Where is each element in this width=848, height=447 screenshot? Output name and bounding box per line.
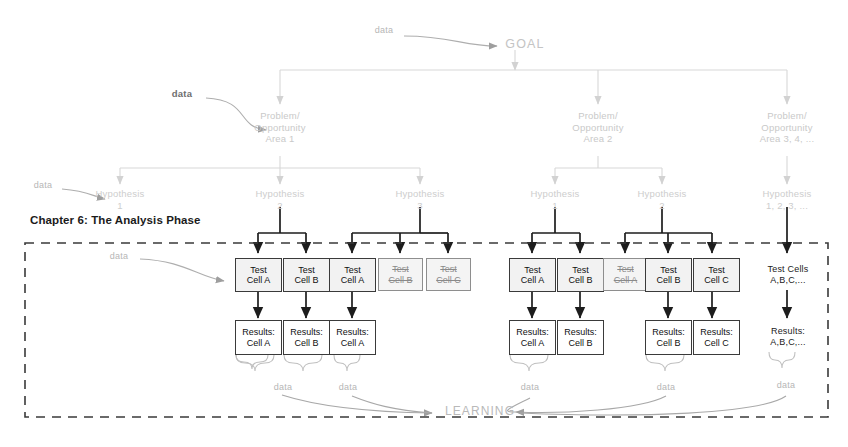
test-cell-g2-a[interactable]: Test Cell A xyxy=(329,258,376,292)
problem-area-3: Problem/ Opportunity Area 3, 4, ... xyxy=(740,110,834,145)
test-cell-label: Test Cell B xyxy=(656,265,680,286)
results-label: Results: Cell A xyxy=(336,327,369,348)
test-cell-label: Test Cell C xyxy=(704,265,729,286)
test-cell-label: Test Cell A xyxy=(521,265,545,286)
results-r2-a[interactable]: Results: Cell A xyxy=(329,320,376,355)
hypothesis-1-2: Hypothesis 2 xyxy=(240,188,320,211)
test-cell-label: Test Cell B xyxy=(388,264,412,285)
data-label-to-hypothesis1: data xyxy=(26,179,60,191)
test-cell-g1-b[interactable]: Test Cell B xyxy=(283,258,330,292)
test-cells-g5-all: Test Cells A,B,C,... xyxy=(752,264,824,286)
results-r1-a[interactable]: Results: Cell A xyxy=(235,320,282,355)
learning-node: LEARNING xyxy=(437,405,523,417)
hypothesis-2-2: Hypothesis 2 xyxy=(622,188,702,211)
hypothesis-1-1: Hypothesis 1 xyxy=(80,188,160,211)
results-label: Results: Cell C xyxy=(700,327,733,348)
test-cell-label: Test Cell A xyxy=(247,265,271,286)
problem-area-1: Problem/ Opportunity Area 1 xyxy=(235,110,325,145)
test-cell-g1-a[interactable]: Test Cell A xyxy=(235,258,282,292)
test-cell-g4-c[interactable]: Test Cell C xyxy=(693,258,740,292)
results-r4-b[interactable]: Results: Cell B xyxy=(645,320,692,355)
results-r1-b[interactable]: Results: Cell B xyxy=(283,320,330,355)
test-cell-g3-b[interactable]: Test Cell B xyxy=(557,258,604,292)
test-cell-label: Test Cell C xyxy=(436,264,461,285)
data-label-to-area1: data xyxy=(162,88,202,100)
hypothesis-1-3: Hypothesis 3 xyxy=(380,188,460,211)
test-cell-g2-c-cancelled[interactable]: Test Cell C xyxy=(426,258,471,291)
diagram-canvas: Chapter 6: The Analysis Phase GOAL data … xyxy=(0,0,848,447)
goal-node: GOAL xyxy=(495,38,555,50)
data-label-brace-g2: data xyxy=(330,381,366,393)
problem-area-2: Problem/ Opportunity Area 2 xyxy=(553,110,643,145)
test-cell-label: Test Cell B xyxy=(568,265,592,286)
results-label: Results: Cell A xyxy=(516,327,549,348)
data-label-brace-g5: data xyxy=(768,379,804,391)
test-cell-g4-b[interactable]: Test Cell B xyxy=(645,258,692,292)
data-label-brace-g3: data xyxy=(512,381,548,393)
hypothesis-2-1: Hypothesis 1 xyxy=(515,188,595,211)
results-label: Results: Cell B xyxy=(290,327,323,348)
data-label-to-goal: data xyxy=(366,24,402,36)
test-cell-label: Test Cell A xyxy=(614,264,638,285)
results-label: Results: Cell A xyxy=(242,327,275,348)
test-cell-label: Test Cell B xyxy=(294,265,318,286)
chapter-heading: Chapter 6: The Analysis Phase xyxy=(30,214,201,226)
test-cell-label: Test Cell A xyxy=(341,265,365,286)
data-label-to-testcell: data xyxy=(100,250,138,262)
test-cell-g4-a-cancelled[interactable]: Test Cell A xyxy=(603,258,648,291)
results-label: Results: Cell B xyxy=(564,327,597,348)
test-cell-g3-a[interactable]: Test Cell A xyxy=(509,258,556,292)
data-label-brace-g4: data xyxy=(648,381,684,393)
results-label: Results: Cell B xyxy=(652,327,685,348)
data-label-brace-g1: data xyxy=(265,381,301,393)
results-r5-all: Results: A,B,C,... xyxy=(752,326,824,348)
hypothesis-3-1: Hypothesis 1, 2, 3, ... xyxy=(745,188,829,211)
results-r3-a[interactable]: Results: Cell A xyxy=(509,320,556,355)
results-r3-b[interactable]: Results: Cell B xyxy=(557,320,604,355)
test-cell-g2-b-cancelled[interactable]: Test Cell B xyxy=(378,258,423,291)
results-r4-c[interactable]: Results: Cell C xyxy=(693,320,740,355)
